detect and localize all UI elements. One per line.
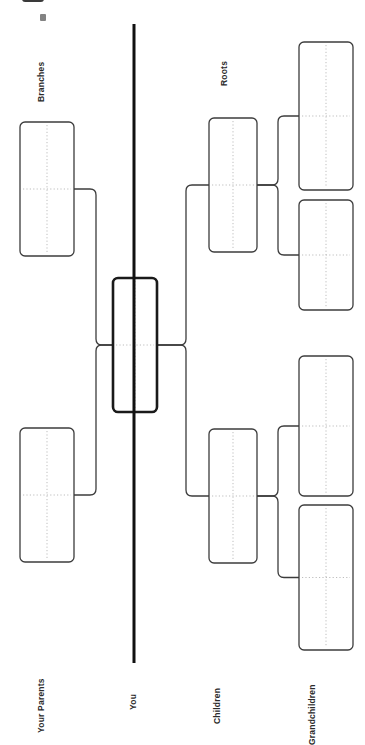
box-grandchild-4[interactable]: [299, 505, 353, 650]
box-grandchild-3[interactable]: [299, 356, 353, 496]
box-child-1[interactable]: [209, 118, 257, 252]
connector-you-child-2: [157, 345, 209, 496]
box-parent-1[interactable]: [20, 122, 74, 256]
label-grandchildren: Grandchildren: [307, 684, 317, 745]
label-branches: Branches: [36, 62, 46, 102]
box-parent-2[interactable]: [20, 428, 74, 562]
box-child-2[interactable]: [209, 429, 257, 563]
connector-child-2-grandchild-4: [257, 496, 299, 578]
box-layer: [20, 42, 353, 650]
box-grandchild-2[interactable]: [299, 200, 353, 310]
family-tree-diagram: [0, 0, 365, 745]
label-children: Children: [212, 688, 222, 724]
label-your_parents: Your Parents: [36, 678, 46, 733]
connector-child-1-grandchild-2: [257, 185, 299, 255]
connector-child-1-grandchild-1: [257, 116, 299, 185]
label-roots: Roots: [219, 61, 229, 86]
label-you: You: [128, 694, 138, 710]
connector-you-parent-1: [74, 189, 113, 345]
connector-child-2-grandchild-3: [257, 426, 299, 496]
connector-layer: [74, 116, 299, 578]
connector-you-child-1: [157, 185, 209, 345]
box-grandchild-1[interactable]: [299, 42, 353, 190]
connector-you-parent-2: [74, 345, 113, 495]
